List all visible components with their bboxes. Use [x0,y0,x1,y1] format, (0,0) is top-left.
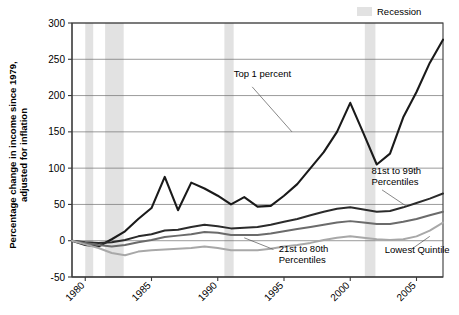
label-leader-line [252,87,292,132]
series-label: 21st to 80th [279,243,329,254]
y-tick-label: -50 [51,272,66,283]
series-label-line2: Percentiles [279,254,326,265]
x-tick-label: 2000 [328,279,352,303]
label-leader-line [382,190,406,206]
y-axis-title-line2: adjusted for inflation [18,108,29,202]
income-change-line-chart: -500501001502002503001980198519901995200… [0,0,459,315]
y-tick-label: 200 [48,90,65,101]
legend-swatch-recession [357,7,372,16]
x-tick-label: 1995 [262,279,286,303]
y-tick-label: 0 [59,235,65,246]
y-tick-label: 150 [48,126,65,137]
chart-canvas: -500501001502002503001980198519901995200… [0,0,459,315]
x-tick-label: 1980 [63,279,87,303]
series-label: 81st to 99th [371,165,421,176]
y-tick-label: 300 [48,18,65,29]
series-label-line2: Percentiles [371,176,418,187]
series-label: Top 1 percent [234,68,292,79]
recession-band [105,23,124,277]
x-tick-label: 1985 [129,279,153,303]
y-axis-title: Percentage change in income since 1979, [7,61,18,248]
recession-band [85,23,93,277]
recession-band [224,23,233,277]
y-tick-label: 50 [54,199,66,210]
legend-label-recession: Recession [377,6,421,17]
label-leader-line [244,238,273,250]
x-tick-label: 2005 [394,279,418,303]
series-label: Lowest Quintile [385,244,450,255]
y-tick-label: 250 [48,54,65,65]
x-tick-label: 1990 [196,279,220,303]
y-tick-label: 100 [48,163,65,174]
